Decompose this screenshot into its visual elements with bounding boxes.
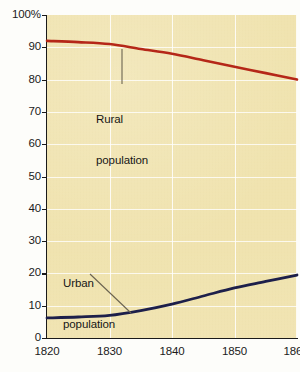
annotation-rural: Rural population <box>96 86 148 194</box>
annotation-urban-line1: Urban <box>63 277 115 291</box>
population-line-chart: 100% 90 80 70 60 50 40 30 20 10 0 1820 1… <box>0 0 300 372</box>
annotation-rural-line1: Rural <box>96 113 148 127</box>
annotation-rural-line2: population <box>96 154 148 168</box>
annotation-leaders <box>0 0 300 372</box>
annotation-urban-line2: population <box>63 318 115 332</box>
annotation-urban: Urban population <box>63 250 115 358</box>
